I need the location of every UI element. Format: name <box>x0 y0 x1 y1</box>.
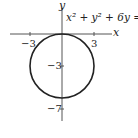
x-tick-label-3: 3 <box>91 39 97 49</box>
y-axis-label: y <box>59 0 65 11</box>
x-tick-label-neg3: −3 <box>21 39 36 49</box>
equation-label: x² + y² + 6y = 0 <box>66 12 138 23</box>
graph-figure: y x x² + y² + 6y = 0 −3 3 −3 −7 <box>0 0 138 138</box>
y-tick-label-neg7: −7 <box>47 104 62 114</box>
y-tick-label-neg3: −3 <box>47 61 62 71</box>
x-axis-label: x <box>113 27 119 38</box>
